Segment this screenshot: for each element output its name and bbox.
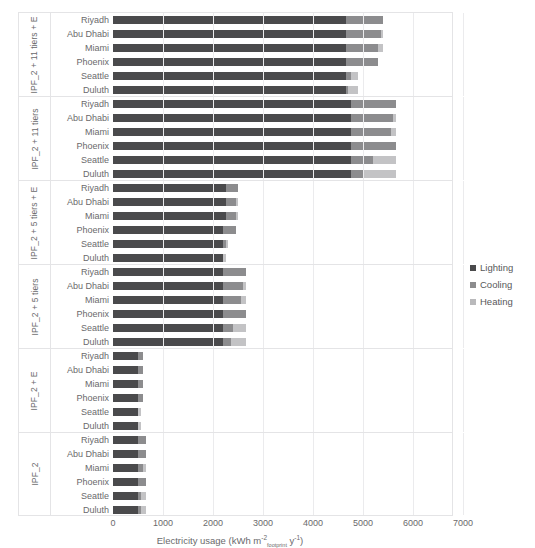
x-axis-tick-label: 5000	[353, 518, 373, 528]
stacked-bar[interactable]	[113, 422, 141, 430]
stacked-bar[interactable]	[113, 506, 146, 514]
bar-segment-heating	[351, 72, 359, 80]
chart-row: Riyadh	[51, 265, 452, 279]
bar-segment-lighting	[113, 492, 138, 500]
city-label: Phoenix	[51, 57, 113, 67]
chart-group: IPF_2 + ERiyadhAbu DhabiMiamiPhoenixSeat…	[18, 348, 453, 432]
stacked-bar[interactable]	[113, 170, 396, 178]
bar-segment-heating	[223, 254, 226, 262]
chart-row: Phoenix	[51, 55, 452, 69]
bar-segment-cooling	[138, 380, 143, 388]
stacked-bar[interactable]	[113, 436, 146, 444]
stacked-bar[interactable]	[113, 212, 238, 220]
stacked-bar[interactable]	[113, 394, 143, 402]
city-label: Riyadh	[51, 15, 113, 25]
bar-segment-lighting	[113, 240, 223, 248]
bar-segment-cooling	[346, 58, 379, 66]
stacked-bar[interactable]	[113, 226, 236, 234]
legend-item[interactable]: Lighting	[470, 262, 513, 273]
bar-track	[113, 153, 452, 167]
bar-segment-cooling	[223, 324, 233, 332]
stacked-bar[interactable]	[113, 156, 396, 164]
stacked-bar[interactable]	[113, 450, 146, 458]
bar-track	[113, 489, 452, 503]
bar-segment-heating	[243, 282, 246, 290]
stacked-bar[interactable]	[113, 380, 143, 388]
x-axis-tick-label: 4000	[303, 518, 323, 528]
bar-track	[113, 363, 452, 377]
chart-row: Abu Dhabi	[51, 447, 452, 461]
bar-track	[113, 139, 452, 153]
city-label: Duluth	[51, 505, 113, 515]
stacked-bar[interactable]	[113, 100, 396, 108]
stacked-bar[interactable]	[113, 296, 246, 304]
stacked-bar[interactable]	[113, 86, 358, 94]
city-label: Phoenix	[51, 309, 113, 319]
stacked-bar[interactable]	[113, 492, 146, 500]
page-header	[0, 0, 535, 10]
city-label: Riyadh	[51, 99, 113, 109]
bar-segment-lighting	[113, 156, 351, 164]
stacked-bar[interactable]	[113, 408, 141, 416]
gridline	[463, 349, 464, 432]
bar-segment-lighting	[113, 114, 351, 122]
legend-label: Cooling	[480, 279, 512, 290]
bar-segment-lighting	[113, 380, 138, 388]
stacked-bar[interactable]	[113, 352, 143, 360]
legend-item[interactable]: Heating	[470, 296, 513, 307]
city-label: Seattle	[51, 323, 113, 333]
chart-row: Miami	[51, 377, 452, 391]
chart-row: Seattle	[51, 153, 452, 167]
bar-track	[113, 69, 452, 83]
stacked-bar[interactable]	[113, 240, 228, 248]
bar-segment-heating	[141, 506, 146, 514]
bar-segment-heating	[381, 30, 384, 38]
stacked-bar[interactable]	[113, 282, 246, 290]
city-label: Phoenix	[51, 393, 113, 403]
bar-segment-cooling	[223, 296, 241, 304]
gridline	[463, 13, 464, 96]
stacked-bar[interactable]	[113, 44, 383, 52]
stacked-bar[interactable]	[113, 142, 396, 150]
stacked-bar[interactable]	[113, 114, 396, 122]
bar-segment-cooling	[346, 30, 381, 38]
stacked-bar[interactable]	[113, 464, 146, 472]
bar-segment-cooling	[351, 128, 391, 136]
stacked-bar[interactable]	[113, 72, 358, 80]
gridline	[463, 265, 464, 348]
stacked-bar[interactable]	[113, 128, 396, 136]
legend-label: Lighting	[480, 262, 513, 273]
stacked-bar[interactable]	[113, 16, 383, 24]
stacked-bar[interactable]	[113, 58, 378, 66]
gridline	[463, 433, 464, 515]
bar-segment-lighting	[113, 72, 346, 80]
bar-track	[113, 41, 452, 55]
group-axis-label-text: IPF_2	[30, 462, 40, 485]
stacked-bar[interactable]	[113, 198, 238, 206]
stacked-bar[interactable]	[113, 324, 246, 332]
stacked-bar[interactable]	[113, 184, 238, 192]
stacked-bar[interactable]	[113, 310, 246, 318]
bar-track	[113, 13, 452, 27]
bar-segment-heating	[373, 156, 396, 164]
group-rows: RiyadhAbu DhabiMiamiPhoenixSeattleDuluth	[51, 265, 452, 348]
stacked-bar[interactable]	[113, 30, 383, 38]
city-label: Miami	[51, 127, 113, 137]
bar-segment-heating	[236, 198, 239, 206]
bar-segment-heating	[138, 408, 141, 416]
bar-track	[113, 223, 452, 237]
bar-segment-lighting	[113, 408, 138, 416]
chart-row: Phoenix	[51, 475, 452, 489]
legend-item[interactable]: Cooling	[470, 279, 513, 290]
bar-segment-lighting	[113, 254, 223, 262]
bar-segment-cooling	[351, 142, 396, 150]
stacked-bar[interactable]	[113, 478, 146, 486]
bar-segment-lighting	[113, 450, 138, 458]
bar-track	[113, 307, 452, 321]
group-rows: RiyadhAbu DhabiMiamiPhoenixSeattleDuluth	[51, 349, 452, 432]
stacked-bar[interactable]	[113, 338, 246, 346]
bar-segment-lighting	[113, 44, 346, 52]
stacked-bar[interactable]	[113, 254, 226, 262]
stacked-bar[interactable]	[113, 268, 246, 276]
stacked-bar[interactable]	[113, 366, 143, 374]
